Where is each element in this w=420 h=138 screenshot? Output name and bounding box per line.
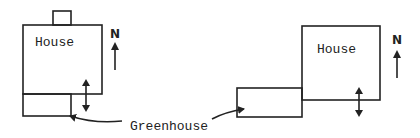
greenhouse-label: Greenhouse [130,119,208,134]
left-greenhouse [23,94,71,116]
left-house-label: House [35,35,74,50]
right-north-label: N [392,33,402,47]
right-plan: House N [237,26,402,117]
left-north-label: N [110,27,120,41]
right-house [302,26,380,100]
left-north-arrow-icon [111,42,119,70]
greenhouse-placement-diagram: House N House N Greenhou [0,0,420,138]
left-double-arrow-icon [82,79,90,112]
left-pointer-arrow-icon [70,116,122,122]
left-plan: House N [23,11,120,116]
right-greenhouse [237,88,302,117]
right-house-label: House [317,42,356,57]
right-north-arrow-icon [393,50,401,78]
right-double-arrow-icon [355,87,363,117]
left-chimney [53,11,71,25]
